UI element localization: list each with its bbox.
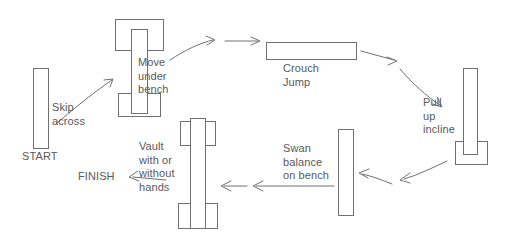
arrow-swan-to-vault: [253, 181, 334, 191]
label-pull-up-incline: Pull up incline: [423, 96, 455, 137]
station-pull-up-incline: [456, 69, 488, 165]
label-swan-balance: Swan balance on bench: [283, 142, 329, 183]
circuit-diagram: START Skip across Move under bench Crouc…: [0, 0, 510, 241]
arrow-crouch-approach: [225, 37, 260, 45]
arrow-pullup-to-swan: [400, 161, 447, 183]
station-start-bar: [34, 69, 49, 149]
station-swan-balance-bar: [339, 130, 354, 216]
label-skip-across: Skip across: [52, 101, 85, 128]
station-vault-bench: [179, 119, 218, 229]
label-move-under-bench: Move under bench: [138, 56, 168, 97]
label-crouch-jump: Crouch Jump: [283, 62, 319, 89]
station-crouch-jump-bar: [267, 43, 357, 60]
label-start: START: [22, 150, 58, 164]
arrow-vault-approach: [221, 181, 247, 191]
label-finish: FINISH: [78, 170, 115, 184]
arrow-crouch-to-pullup-a: [361, 51, 397, 65]
arrow-bench-to-crouch: [170, 36, 215, 60]
arrow-swan-approach: [359, 169, 392, 184]
label-vault: Vault with or without hands: [139, 140, 175, 194]
